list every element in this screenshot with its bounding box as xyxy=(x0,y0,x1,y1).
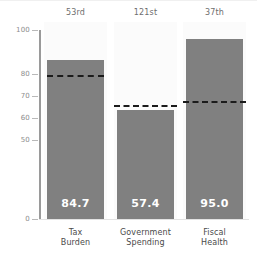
category-label-fiscal-health: Fiscal Health xyxy=(179,228,250,248)
bar-tax-burden[interactable] xyxy=(47,60,104,219)
rank-label-fiscal-health: 37th xyxy=(183,9,246,17)
y-tick-label-70: 70 xyxy=(4,93,30,100)
bar-chart: 100 80 70 60 50 0 84.7 57.4 95.0 53rd 12… xyxy=(0,0,257,261)
category-label-line-1: Government xyxy=(120,228,171,237)
y-tick-label-50: 50 xyxy=(4,137,30,144)
rank-label-government-spending: 121st xyxy=(114,9,177,17)
y-tick-label-80: 80 xyxy=(4,71,30,78)
y-tick-label-60: 60 xyxy=(4,115,30,122)
y-tick-mark-100 xyxy=(32,30,38,31)
plot-area: 100 80 70 60 50 0 84.7 57.4 95.0 53rd 12… xyxy=(0,0,257,261)
category-label-line-1: Fiscal xyxy=(203,228,226,237)
y-tick-mark-0 xyxy=(32,219,38,220)
bar-value-government-spending: 57.4 xyxy=(117,198,174,209)
bar-value-fiscal-health: 95.0 xyxy=(186,198,243,209)
y-tick-mark-70 xyxy=(32,96,38,97)
bar-value-tax-burden: 84.7 xyxy=(47,198,104,209)
y-tick-mark-80 xyxy=(32,74,38,75)
category-label-line-2: Health xyxy=(201,238,228,247)
y-tick-mark-60 xyxy=(32,118,38,119)
bar-fiscal-health[interactable] xyxy=(186,39,243,219)
category-label-line-2: Spending xyxy=(126,238,164,247)
category-label-tax-burden: Tax Burden xyxy=(40,228,111,248)
y-tick-label-0: 0 xyxy=(4,216,30,223)
category-label-government-spending: Government Spending xyxy=(110,228,181,248)
reference-line-government-spending xyxy=(114,105,177,107)
category-label-line-2: Burden xyxy=(61,238,90,247)
reference-line-fiscal-health xyxy=(183,101,246,103)
y-tick-label-100: 100 xyxy=(4,27,30,34)
y-tick-mark-50 xyxy=(32,140,38,141)
category-label-line-1: Tax xyxy=(69,228,83,237)
rank-label-tax-burden: 53rd xyxy=(44,9,107,17)
x-axis-baseline xyxy=(39,219,249,220)
reference-line-tax-burden xyxy=(47,75,104,77)
y-axis-line xyxy=(39,30,41,219)
